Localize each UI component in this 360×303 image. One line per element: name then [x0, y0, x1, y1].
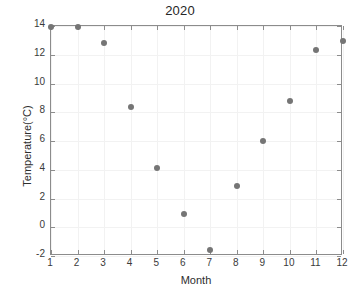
x-tick-top	[343, 26, 344, 30]
x-tick-label: 3	[91, 257, 115, 268]
y-tick-right	[337, 170, 341, 171]
x-tick-top	[104, 26, 105, 30]
gridline-horizontal	[51, 26, 341, 27]
gridline-vertical	[104, 26, 105, 254]
gridline-horizontal	[51, 227, 341, 228]
x-tick-top	[184, 26, 185, 30]
y-tick	[51, 84, 55, 85]
y-tick-right	[337, 199, 341, 200]
y-tick-label: 14	[19, 18, 45, 29]
y-tick	[51, 199, 55, 200]
x-tick-label: 12	[330, 257, 354, 268]
gridline-vertical	[316, 26, 317, 254]
data-point	[234, 183, 240, 189]
y-tick-right	[337, 26, 341, 27]
x-tick-label: 8	[224, 257, 248, 268]
x-tick	[263, 250, 264, 254]
gridline-vertical	[78, 26, 79, 254]
data-point	[340, 38, 346, 44]
x-tick	[290, 250, 291, 254]
chart-title: 2020	[0, 3, 360, 18]
gridline-horizontal	[51, 112, 341, 113]
scatter-chart-figure: 2020 123456789101112 -202468101214 Month…	[0, 0, 360, 303]
data-point	[128, 104, 134, 110]
x-tick-label: 7	[197, 257, 221, 268]
y-tick-right	[337, 84, 341, 85]
x-tick-label: 2	[65, 257, 89, 268]
y-tick-right	[337, 227, 341, 228]
data-point	[48, 24, 54, 30]
plot-area	[50, 25, 342, 255]
x-tick	[78, 250, 79, 254]
x-tick	[51, 250, 52, 254]
data-point	[101, 40, 107, 46]
y-tick-right	[337, 112, 341, 113]
x-tick-label: 9	[250, 257, 274, 268]
x-tick-top	[316, 26, 317, 30]
x-tick-top	[263, 26, 264, 30]
y-axis-label: Temperature(°C)	[21, 56, 33, 236]
x-tick-top	[237, 26, 238, 30]
data-point	[287, 98, 293, 104]
gridline-horizontal	[51, 199, 341, 200]
x-tick-label: 6	[171, 257, 195, 268]
x-tick	[104, 250, 105, 254]
x-tick	[157, 250, 158, 254]
x-tick	[343, 250, 344, 254]
data-point	[181, 211, 187, 217]
gridline-vertical	[343, 26, 344, 254]
x-tick-label: 11	[303, 257, 327, 268]
gridline-vertical	[131, 26, 132, 254]
y-tick	[51, 112, 55, 113]
gridline-vertical	[210, 26, 211, 254]
data-point	[75, 24, 81, 30]
gridline-vertical	[157, 26, 158, 254]
x-tick	[184, 250, 185, 254]
gridline-horizontal	[51, 84, 341, 85]
x-axis-label: Month	[50, 274, 342, 286]
x-tick-label: 5	[144, 257, 168, 268]
data-point	[313, 47, 319, 53]
x-tick-top	[157, 26, 158, 30]
data-point	[260, 138, 266, 144]
x-tick	[131, 250, 132, 254]
gridline-vertical	[184, 26, 185, 254]
y-tick-right	[337, 141, 341, 142]
gridline-vertical	[51, 26, 52, 254]
x-tick-top	[210, 26, 211, 30]
y-tick	[51, 55, 55, 56]
gridline-horizontal	[51, 55, 341, 56]
gridline-vertical	[237, 26, 238, 254]
data-point	[207, 247, 213, 253]
gridline-horizontal	[51, 141, 341, 142]
data-point	[154, 165, 160, 171]
y-tick	[51, 227, 55, 228]
y-tick	[51, 170, 55, 171]
y-tick	[51, 141, 55, 142]
x-tick-label: 4	[118, 257, 142, 268]
x-tick	[316, 250, 317, 254]
gridline-horizontal	[51, 170, 341, 171]
y-tick-label: -2	[19, 248, 45, 259]
x-tick-top	[290, 26, 291, 30]
y-tick-right	[337, 55, 341, 56]
x-tick-top	[131, 26, 132, 30]
x-tick-label: 10	[277, 257, 301, 268]
x-tick	[237, 250, 238, 254]
gridline-vertical	[290, 26, 291, 254]
